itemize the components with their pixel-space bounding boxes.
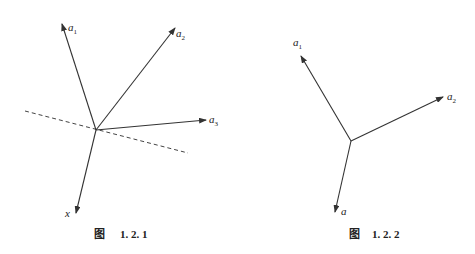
- vector-a3: [96, 120, 206, 130]
- vector-a2: [96, 28, 175, 130]
- figure-1-2-2: a1 a2 a 图 1. 2. 2: [293, 36, 457, 240]
- label-a1: a1: [293, 36, 303, 51]
- vector-a2: [351, 97, 443, 141]
- vector-a1: [62, 24, 96, 130]
- figure-caption-number: 1. 2. 1: [120, 228, 148, 240]
- figure-caption-number: 1. 2. 2: [372, 228, 400, 240]
- vector-a1: [301, 56, 351, 141]
- label-a1: a1: [68, 21, 78, 36]
- vector-x: [76, 130, 96, 213]
- label-x: x: [64, 207, 70, 219]
- diagram-canvas: a1 a2 a3 x 图 1. 2. 1 a1 a2 a 图 1. 2. 2: [0, 0, 475, 254]
- label-a3: a3: [209, 113, 219, 128]
- label-a2: a2: [447, 90, 457, 105]
- figure-caption-prefix: 图: [94, 228, 105, 240]
- label-a2: a2: [176, 27, 186, 42]
- figure-1-2-1: a1 a2 a3 x 图 1. 2. 1: [25, 21, 219, 240]
- figure-caption-prefix: 图: [349, 228, 360, 240]
- label-a: a: [341, 205, 347, 217]
- vector-a: [335, 141, 351, 212]
